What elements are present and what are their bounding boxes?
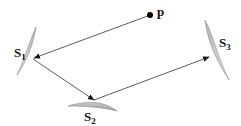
light-path-diagram: p S1 S2 S3 bbox=[0, 0, 241, 126]
ray-s1-to-s2 bbox=[33, 59, 94, 100]
ray-s2-to-s3 bbox=[94, 57, 209, 100]
label-p: p bbox=[157, 5, 164, 18]
label-s2: S2 bbox=[84, 110, 96, 126]
diagram-graphics bbox=[0, 0, 241, 126]
point-p-dot bbox=[147, 12, 153, 18]
label-s3: S3 bbox=[219, 36, 231, 52]
label-s1: S1 bbox=[14, 46, 26, 62]
ray-p-to-s1 bbox=[34, 16, 149, 59]
